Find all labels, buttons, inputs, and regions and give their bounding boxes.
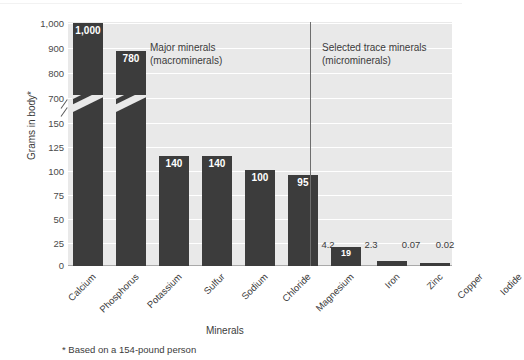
y-axis-title: Grams in body* (26, 71, 37, 181)
bar-value-chloride: 95 (288, 177, 318, 188)
bar-value-phosphorus: 780 (116, 53, 146, 64)
annotation-macrominerals: Major minerals (macrominerals) (150, 42, 222, 67)
bar-sulfur[interactable]: 140 (202, 156, 232, 266)
bar-value-iron: 4.2 (313, 239, 343, 250)
x-axis-title: Minerals (206, 325, 244, 336)
bar-calcium[interactable]: 1,000 (73, 23, 103, 266)
bar-iron[interactable] (377, 261, 407, 266)
annotation-macrominerals-line2: (macrominerals) (150, 55, 222, 68)
y-tick-50: 50 (2, 215, 64, 225)
y-tick-1000: 1,000 (2, 19, 64, 29)
group-divider (310, 22, 311, 266)
annotation-macrominerals-line1: Major minerals (150, 42, 222, 55)
x-label-zinc: Zinc (359, 271, 445, 357)
annotation-microminerals: Selected trace minerals (microminerals) (322, 42, 427, 67)
y-tick-25: 25 (2, 239, 64, 249)
chart-footnote: * Based on a 154-pound person (62, 344, 196, 355)
bar-value-potassium: 140 (159, 158, 189, 169)
gridline-1000 (68, 23, 452, 24)
bar-chloride[interactable]: 95 (288, 175, 318, 266)
bar-value-iodide: 0.02 (428, 239, 462, 250)
annotation-microminerals-line2: (microminerals) (322, 55, 427, 68)
top-rule (0, 3, 462, 4)
bar-value-copper: 0.07 (392, 239, 430, 250)
x-label-chloride: Chloride (227, 271, 313, 357)
x-label-sodium: Sodium (184, 271, 270, 357)
bar-break-phosphorus (115, 95, 147, 121)
bar-value-sulfur: 140 (202, 158, 232, 169)
y-tick-900: 900 (2, 44, 64, 54)
annotation-microminerals-line1: Selected trace minerals (322, 42, 427, 55)
x-label-iodide: Iodide (438, 271, 524, 357)
x-label-magnesium: Magnesium (270, 271, 356, 357)
bar-value-zinc: 2.3 (356, 239, 386, 250)
x-label-iron: Iron (316, 271, 402, 357)
bar-value-sodium: 100 (245, 172, 275, 183)
bar-zinc[interactable] (420, 263, 450, 266)
y-tick-75: 75 (2, 191, 64, 201)
y-tick-0: 0 (2, 261, 64, 271)
bar-potassium[interactable]: 140 (159, 156, 189, 266)
bar-value-calcium: 1,000 (73, 25, 103, 36)
bar-phosphorus[interactable]: 780 (116, 51, 146, 266)
bar-break-calcium (72, 95, 104, 121)
bar-sodium[interactable]: 100 (245, 170, 275, 266)
